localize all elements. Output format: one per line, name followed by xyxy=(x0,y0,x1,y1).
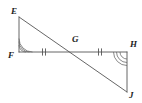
figure-canvas xyxy=(0,0,142,103)
segment-group xyxy=(19,17,127,92)
vertex-label-J: J xyxy=(129,91,134,100)
angle-arc-H xyxy=(114,52,128,66)
vertex-label-E: E xyxy=(11,7,17,16)
geometry-figure: E F G H J xyxy=(0,0,142,103)
vertex-label-H: H xyxy=(130,40,137,49)
angle-arc-H-inner xyxy=(120,52,127,59)
vertex-label-G: G xyxy=(72,35,79,44)
angle-arc-F-outer xyxy=(19,42,30,53)
segment-EJ xyxy=(19,17,127,92)
angle-arc-F xyxy=(19,39,33,53)
angle-arc-H-outer xyxy=(117,52,128,63)
vertex-label-F: F xyxy=(8,51,14,60)
